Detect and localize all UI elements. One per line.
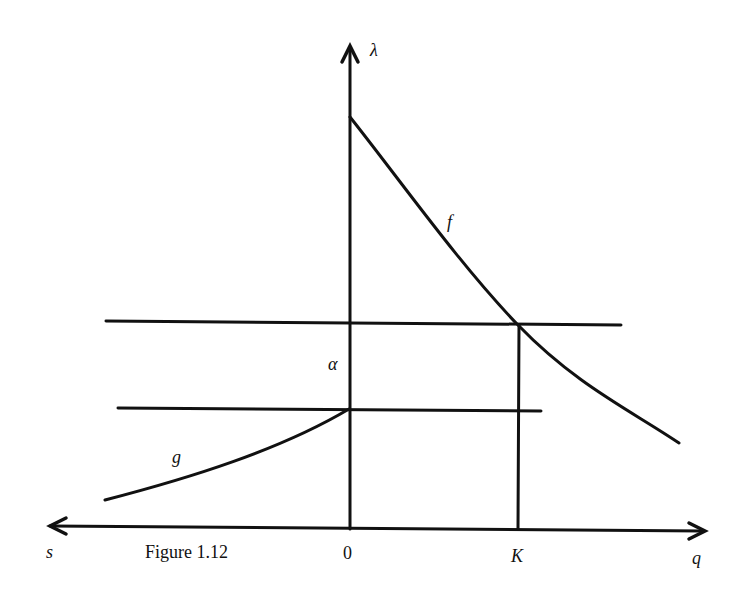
origin-label: 0: [343, 543, 352, 563]
figure-caption: Figure 1.12: [145, 542, 228, 562]
diagram-canvas: λ f α g s Figure 1.12 0 K q: [0, 0, 743, 599]
alpha-label: α: [328, 354, 338, 374]
lower-level-line: [118, 408, 541, 411]
curve-f-label: f: [447, 212, 455, 232]
horizontal-axis: [50, 526, 703, 531]
curve-g: [105, 409, 349, 500]
upper-level-line: [106, 321, 621, 325]
k-drop-line: [518, 325, 519, 529]
s-axis-label: s: [46, 542, 53, 562]
lambda-axis-label: λ: [369, 40, 378, 60]
q-axis-label: q: [692, 548, 701, 568]
curve-f: [350, 117, 679, 443]
curve-g-label: g: [172, 447, 181, 467]
k-tick-label: K: [510, 546, 524, 566]
